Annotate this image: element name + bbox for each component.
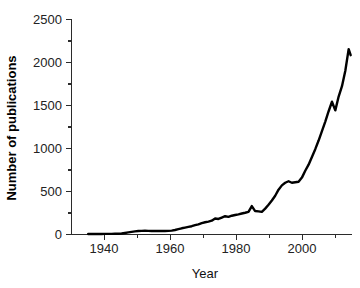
y-tick-label-2500: 2500 — [33, 12, 62, 27]
x-axis-title: Year — [192, 266, 219, 281]
y-tick-label-1500: 1500 — [33, 98, 62, 113]
x-tick-label-1940: 1940 — [90, 241, 119, 256]
x-axis-tick-labels: 1940 1960 1980 2000 — [90, 241, 317, 256]
y-tick-label-2000: 2000 — [33, 55, 62, 70]
chart-canvas: 0 500 1000 1500 2000 2500 1940 1960 1980… — [0, 0, 360, 288]
y-axis-title: Number of publications — [4, 55, 19, 200]
x-tick-label-2000: 2000 — [288, 241, 317, 256]
x-tick-label-1980: 1980 — [222, 241, 251, 256]
y-tick-label-0: 0 — [55, 227, 62, 242]
series-group — [88, 49, 350, 234]
y-axis-tick-labels: 0 500 1000 1500 2000 2500 — [33, 12, 62, 242]
chart-figure: 0 500 1000 1500 2000 2500 1940 1960 1980… — [0, 0, 360, 288]
axes-group — [72, 19, 353, 235]
x-tick-label-1960: 1960 — [156, 241, 185, 256]
y-axis-ticks — [66, 20, 72, 235]
x-axis-ticks — [105, 235, 336, 241]
y-tick-label-500: 500 — [40, 184, 62, 199]
y-tick-label-1000: 1000 — [33, 141, 62, 156]
publications-line-series — [88, 49, 350, 234]
